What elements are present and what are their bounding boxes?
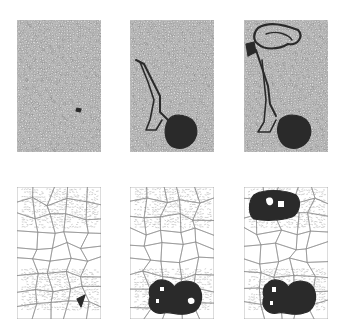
- fine-mesh-final: [244, 20, 328, 152]
- panel-top-2: [130, 20, 214, 152]
- fine-mesh-initial: [17, 20, 101, 152]
- panel-bottom-1: [17, 187, 101, 319]
- panel-top-3: [244, 20, 328, 152]
- adaptive-mesh-initial: [17, 187, 101, 319]
- fine-mesh-intermediate: [130, 20, 214, 152]
- adaptive-mesh-final: [244, 187, 328, 319]
- panel-bottom-2: [130, 187, 214, 319]
- adaptive-mesh-intermediate: [130, 187, 214, 319]
- panel-top-1: [17, 20, 101, 152]
- panel-bottom-3: [244, 187, 328, 319]
